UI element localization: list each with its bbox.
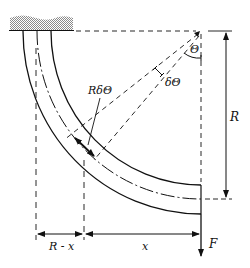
r-minus-x-label: R - x xyxy=(48,240,75,253)
curved-beam xyxy=(23,31,201,214)
arc-element-arrow xyxy=(75,138,94,156)
fixed-wall-support xyxy=(9,16,74,31)
x-label: x xyxy=(142,240,149,253)
radial-line-theta-plus-dtheta xyxy=(94,36,199,160)
beam-centerline xyxy=(37,31,201,199)
curved-beam-diagram: Θ δΘ RδΘ R - x x R F xyxy=(0,0,250,268)
r-label: R xyxy=(229,110,239,124)
delta-theta-marker xyxy=(155,68,162,75)
arc-element-label: RδΘ xyxy=(87,84,112,97)
beam-inner-edge xyxy=(51,31,201,185)
theta-label: Θ xyxy=(190,43,199,56)
beam-outer-edge xyxy=(23,31,201,214)
arc-element-leader xyxy=(88,98,100,145)
delta-theta-label: δΘ xyxy=(165,76,181,89)
force-label: F xyxy=(208,237,218,251)
